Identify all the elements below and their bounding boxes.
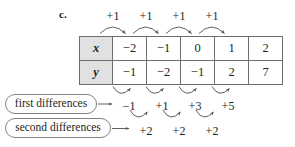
row-header-y: y [80,61,113,85]
first-difference-arrow-4 [212,87,230,94]
x-step-label-4: +1 [195,10,229,23]
cell-x-4: 1 [215,37,249,61]
cell-x-5: 2 [249,37,283,61]
xy-value-table: x −2 −1 0 1 2 y −1 −2 −1 2 7 [79,36,283,85]
x-step-arrow-2 [133,27,159,34]
first-difference-value-3: +3 [180,100,210,113]
first-difference-value-4: +5 [213,100,243,113]
x-step-label-1: +1 [96,10,130,23]
callout-second-differences-label: second differences [15,122,101,134]
callout-second-differences: second differences [5,118,111,138]
x-step-label-3: +1 [162,10,196,23]
part-label: c. [59,8,67,20]
cell-y-2: −2 [147,61,181,85]
first-difference-value-1: −1 [114,100,144,113]
cell-y-5: 7 [249,61,283,85]
row-header-x: x [80,37,113,61]
x-step-arrow-3 [166,27,192,34]
second-difference-value-3: +2 [197,125,227,138]
callout-first-differences-label: first differences [15,98,87,110]
first-difference-value-2: +1 [147,100,177,113]
first-difference-arrow-1 [113,87,131,94]
x-step-label-2: +1 [129,10,163,23]
callout-first-differences: first differences [5,94,97,114]
second-difference-value-1: +2 [131,125,161,138]
second-difference-value-2: +2 [164,125,194,138]
x-step-arrow-4 [199,27,225,34]
first-difference-arrow-3 [179,87,197,94]
difference-table-figure: c. +1 +1 +1 +1 x −2 −1 0 1 2 y −1 −2 −1 … [0,0,295,147]
x-step-arrow-1 [100,27,126,34]
cell-x-2: −1 [147,37,181,61]
table-row-x: x −2 −1 0 1 2 [80,37,283,61]
cell-y-1: −1 [113,61,147,85]
first-difference-arrow-2 [146,87,164,94]
cell-y-4: 2 [215,61,249,85]
cell-x-1: −2 [113,37,147,61]
cell-x-3: 0 [181,37,215,61]
table-row-y: y −1 −2 −1 2 7 [80,61,283,85]
cell-y-3: −1 [181,61,215,85]
